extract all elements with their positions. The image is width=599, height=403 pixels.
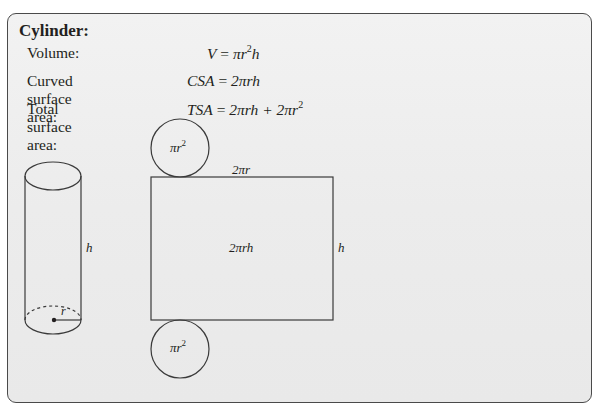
rect-area-label: 2πrh (229, 240, 253, 256)
rect-height-label: h (338, 240, 345, 256)
center-point (52, 318, 56, 322)
cylinder-radius-label: r (61, 304, 66, 319)
cylinder-bottom-front (25, 320, 81, 334)
top-circle-label: πr2 (170, 139, 186, 156)
bottom-circle-label: πr2 (170, 339, 186, 356)
rect-width-label: 2πr (232, 162, 250, 178)
cylinder-top-ellipse (25, 162, 81, 190)
cylinder-bottom-back (25, 306, 81, 320)
cylinder-height-label: h (86, 240, 93, 256)
